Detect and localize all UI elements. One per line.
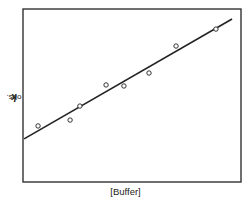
data-point-marker [214,27,218,31]
fit-line [24,19,232,139]
data-point-marker [174,44,178,48]
data-point-marker [68,118,72,122]
data-point-marker [147,71,151,75]
data-point-marker [104,83,108,87]
y-axis-label: kobs. [6,82,22,112]
data-point-marker [78,104,82,108]
data-point-marker [122,84,126,88]
chart-canvas [0,0,251,204]
y-axis-subscript: obs. [6,93,21,102]
plot-frame [23,9,241,182]
data-point-marker [36,124,40,128]
x-axis-label: [Buffer] [0,186,251,197]
